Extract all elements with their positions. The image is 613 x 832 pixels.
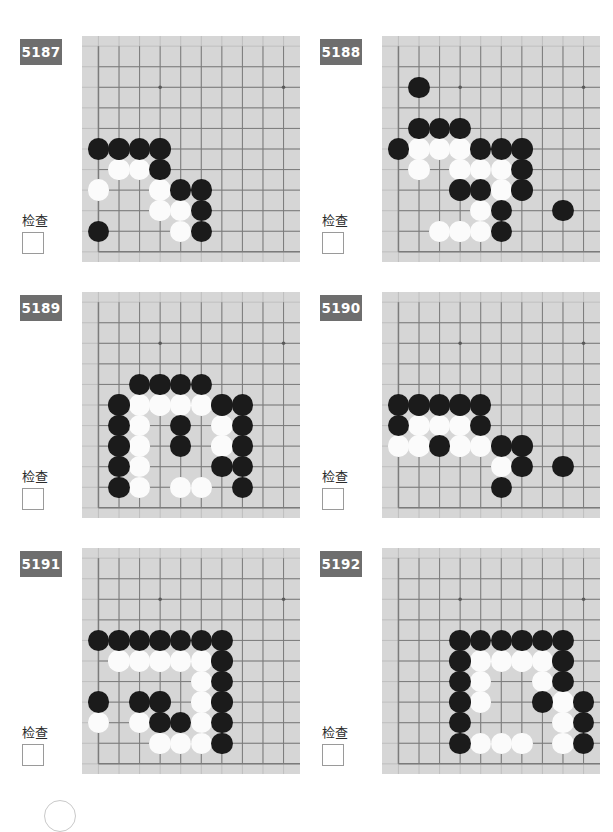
go-board[interactable] <box>382 548 600 774</box>
black-stone <box>449 691 470 712</box>
go-board[interactable] <box>82 548 300 774</box>
black-stone <box>511 179 532 200</box>
black-stone <box>108 456 129 477</box>
black-stone <box>232 394 253 415</box>
black-stone <box>573 733 594 754</box>
black-stone <box>108 138 129 159</box>
black-stone <box>232 435 253 456</box>
check-label: 检查 <box>22 470 72 484</box>
problem-label-column: 5192检查 <box>314 548 382 774</box>
white-stone <box>149 650 170 671</box>
black-stone <box>170 435 191 456</box>
check-label: 检查 <box>22 214 72 228</box>
go-board[interactable] <box>382 292 600 518</box>
black-stone <box>491 630 512 651</box>
check-control: 检查 <box>322 214 372 254</box>
problem-number-badge: 5192 <box>320 551 362 577</box>
white-stone <box>491 159 512 180</box>
black-stone <box>511 138 532 159</box>
black-stone <box>449 394 470 415</box>
white-stone <box>170 650 191 671</box>
white-stone <box>149 200 170 221</box>
black-stone <box>388 138 409 159</box>
problem-label-column: 5190检查 <box>314 292 382 518</box>
white-stone <box>191 394 212 415</box>
black-stone <box>88 630 109 651</box>
black-stone <box>429 435 450 456</box>
black-stone <box>552 671 573 692</box>
check-control: 检查 <box>322 470 372 510</box>
white-stone <box>129 435 150 456</box>
check-checkbox[interactable] <box>322 744 344 766</box>
page-footer-arc <box>44 800 76 832</box>
go-board[interactable] <box>382 36 600 262</box>
white-stone <box>129 477 150 498</box>
white-stone <box>449 435 470 456</box>
check-checkbox[interactable] <box>322 488 344 510</box>
check-checkbox[interactable] <box>22 488 44 510</box>
black-stone <box>552 650 573 671</box>
white-stone <box>129 650 150 671</box>
white-stone <box>449 221 470 242</box>
check-label: 检查 <box>322 214 372 228</box>
check-control: 检查 <box>322 726 372 766</box>
black-stone <box>88 691 109 712</box>
problem-5191: 5191检查 <box>14 548 300 774</box>
go-board[interactable] <box>82 292 300 518</box>
check-label: 检查 <box>322 470 372 484</box>
black-stone <box>449 650 470 671</box>
black-stone <box>211 712 232 733</box>
black-stone <box>191 374 212 395</box>
black-stone <box>449 712 470 733</box>
go-board[interactable] <box>82 36 300 262</box>
black-stone <box>449 179 470 200</box>
black-stone <box>511 630 532 651</box>
black-stone <box>470 138 491 159</box>
white-stone <box>552 733 573 754</box>
white-stone <box>88 179 109 200</box>
white-stone <box>491 733 512 754</box>
white-stone <box>449 138 470 159</box>
black-stone <box>191 179 212 200</box>
black-stone <box>170 179 191 200</box>
black-stone <box>88 221 109 242</box>
black-stone <box>573 691 594 712</box>
black-stone <box>552 200 573 221</box>
black-stone <box>191 630 212 651</box>
black-stone <box>191 221 212 242</box>
black-stone <box>129 691 150 712</box>
black-stone <box>470 394 491 415</box>
white-stone <box>449 159 470 180</box>
white-stone <box>449 415 470 436</box>
black-stone <box>149 374 170 395</box>
black-stone <box>211 394 232 415</box>
white-stone <box>429 221 450 242</box>
white-stone <box>491 650 512 671</box>
black-stone <box>532 630 553 651</box>
black-stone <box>449 630 470 651</box>
check-label: 检查 <box>322 726 372 740</box>
white-stone <box>191 691 212 712</box>
problem-label-column: 5188检查 <box>314 36 382 262</box>
black-stone <box>408 118 429 139</box>
black-stone <box>211 456 232 477</box>
white-stone <box>211 435 232 456</box>
black-stone <box>408 77 429 98</box>
check-checkbox[interactable] <box>22 232 44 254</box>
black-stone <box>388 394 409 415</box>
white-stone <box>191 477 212 498</box>
problem-label-column: 5189检查 <box>14 292 82 518</box>
check-checkbox[interactable] <box>22 744 44 766</box>
black-stone <box>108 435 129 456</box>
black-stone <box>532 691 553 712</box>
check-control: 检查 <box>22 726 72 766</box>
black-stone <box>491 435 512 456</box>
black-stone <box>149 630 170 651</box>
problem-label-column: 5191检查 <box>14 548 82 774</box>
black-stone <box>449 118 470 139</box>
check-checkbox[interactable] <box>322 232 344 254</box>
check-label: 检查 <box>22 726 72 740</box>
black-stone <box>108 477 129 498</box>
white-stone <box>388 435 409 456</box>
white-stone <box>149 179 170 200</box>
